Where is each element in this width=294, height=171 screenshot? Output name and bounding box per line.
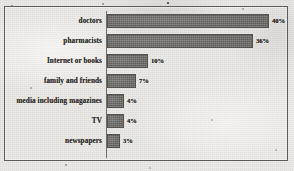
bar-track: 4%: [107, 114, 137, 128]
bar-value-label: 7%: [139, 77, 149, 85]
bar-internet-or-books: [107, 54, 148, 68]
category-label: Internet or books: [5, 57, 102, 65]
bar-doctors: [107, 14, 269, 28]
bar-value-label: 36%: [256, 37, 269, 45]
bar-value-label: 10%: [151, 57, 164, 65]
category-label: TV: [5, 117, 102, 125]
bar-row: Internet or books 10%: [5, 54, 287, 68]
bar-family-and-friends: [107, 74, 136, 88]
bar-newspapers: [107, 134, 120, 148]
bar-row: doctors 40%: [5, 14, 287, 28]
bar-track: 10%: [107, 54, 164, 68]
category-label: doctors: [5, 17, 102, 25]
bar-row: media including magazines 4%: [5, 94, 287, 108]
scanned-chart-page: doctors 40% pharmacists 36% Internet or …: [0, 0, 294, 171]
bar-tv: [107, 114, 124, 128]
bar-value-label: 4%: [127, 117, 137, 125]
bar-row: newspapers 3%: [5, 134, 287, 148]
category-label: family and friends: [5, 77, 102, 85]
category-label: newspapers: [5, 137, 102, 145]
bar-track: 36%: [107, 34, 269, 48]
category-label: media including magazines: [5, 97, 102, 105]
bar-media-including-magazines: [107, 94, 124, 108]
bar-row: pharmacists 36%: [5, 34, 287, 48]
plot-area: doctors 40% pharmacists 36% Internet or …: [5, 7, 287, 160]
bar-track: 4%: [107, 94, 137, 108]
category-label: pharmacists: [5, 37, 102, 45]
bar-track: 3%: [107, 134, 133, 148]
bar-value-label: 40%: [272, 17, 285, 25]
bar-row: family and friends 7%: [5, 74, 287, 88]
bar-value-label: 3%: [123, 137, 133, 145]
bar-track: 7%: [107, 74, 149, 88]
chart-frame: doctors 40% pharmacists 36% Internet or …: [4, 6, 288, 161]
bar-pharmacists: [107, 34, 253, 48]
bar-value-label: 4%: [127, 97, 137, 105]
bar-track: 40%: [107, 14, 285, 28]
bar-row: TV 4%: [5, 114, 287, 128]
